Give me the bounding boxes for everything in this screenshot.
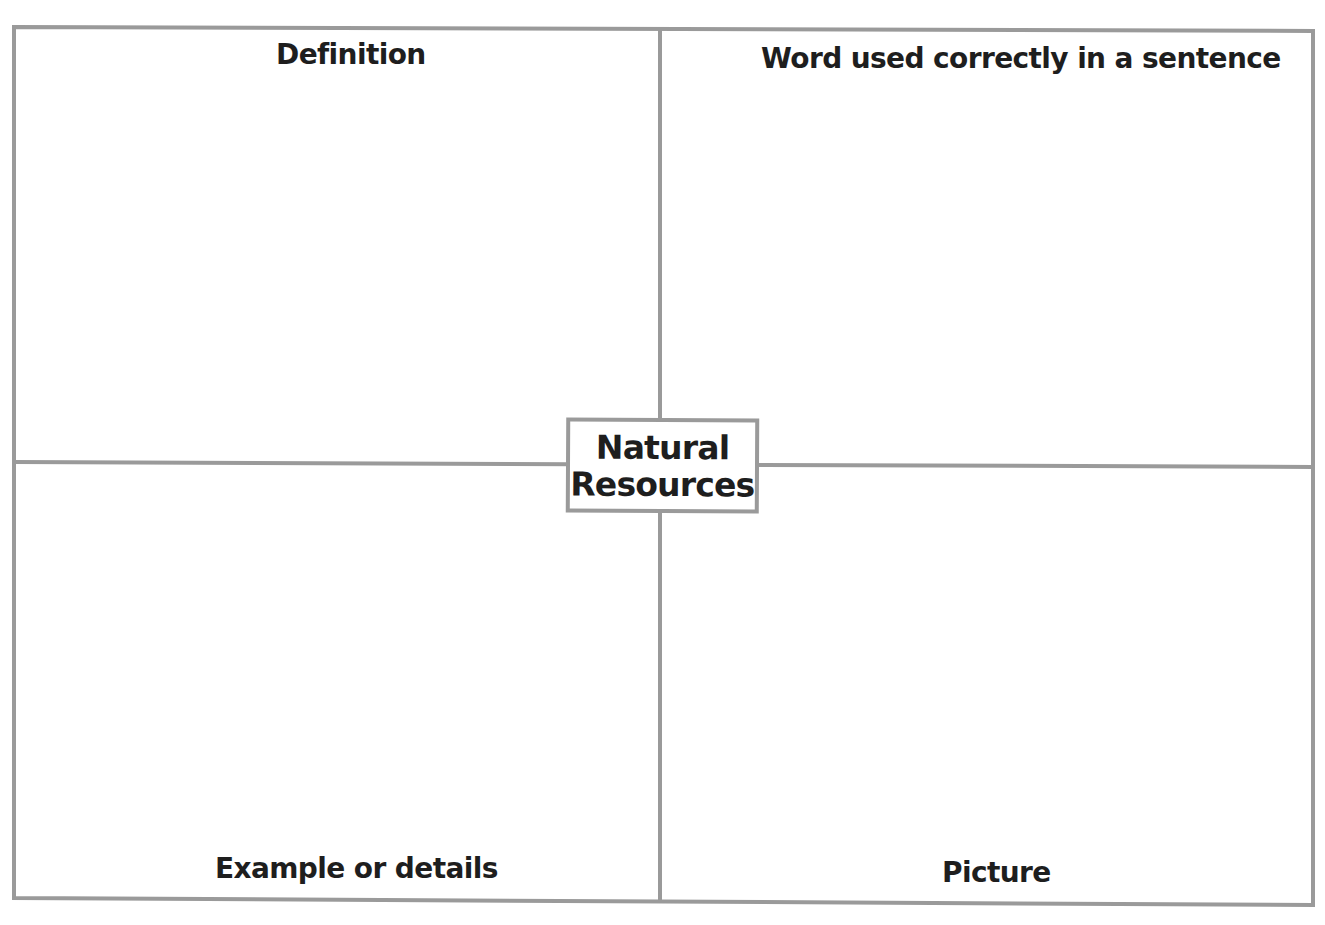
center-term-box: Natural Resources (566, 417, 759, 513)
quadrant-label-definition: Definition (276, 38, 426, 71)
center-term-line1: Natural (596, 428, 730, 466)
quadrant-label-sentence: Word used correctly in a sentence (761, 42, 1281, 75)
quadrant-label-example: Example or details (215, 852, 498, 885)
center-term-line2: Resources (570, 465, 754, 503)
quadrant-label-picture: Picture (942, 856, 1051, 889)
